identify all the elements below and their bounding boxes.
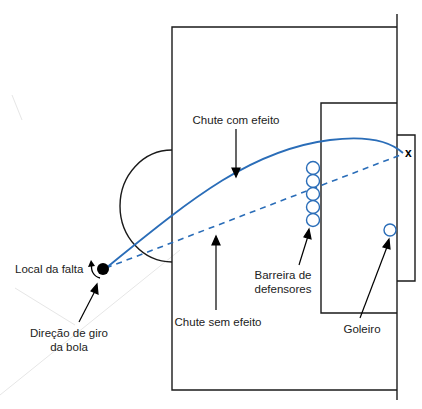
penalty-arc — [120, 150, 172, 262]
defender-circle — [307, 214, 320, 227]
defender-circle — [307, 162, 320, 175]
defender-wall — [307, 162, 320, 227]
curved-shot-label: Chute com efeito — [193, 114, 280, 127]
wall-label-line2: defensores — [255, 283, 312, 296]
goal-area — [321, 103, 397, 313]
spin-arrowhead-icon — [88, 260, 95, 267]
curved-shot-trajectory — [106, 138, 403, 268]
wall-label-line1: Barreira de — [255, 269, 312, 282]
defender-circle — [307, 201, 320, 214]
ball-icon — [97, 263, 109, 275]
faint-background-lines — [0, 95, 180, 395]
annotation-arrows — [79, 129, 390, 322]
goalkeeper-label: Goleiro — [343, 323, 380, 336]
straight-shot-label: Chute sem efeito — [175, 316, 262, 329]
defender-circle — [307, 188, 320, 201]
target-mark: x — [405, 146, 412, 160]
spin-direction-label-line2: da bola — [50, 341, 88, 354]
foul-location-label: Local da falta — [15, 263, 83, 276]
goalkeeper-circle — [384, 224, 396, 236]
spin-direction-label-line1: Direção de giro — [30, 327, 108, 340]
straight-shot-trajectory — [106, 154, 403, 268]
defender-circle — [307, 175, 320, 188]
